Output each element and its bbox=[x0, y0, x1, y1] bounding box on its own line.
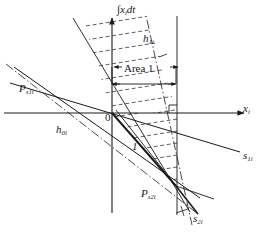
ps1i-label: Ps1i bbox=[19, 83, 34, 96]
one-label: 1 bbox=[132, 141, 138, 152]
figure-svg bbox=[0, 0, 269, 240]
h1i-label: h1i bbox=[143, 33, 154, 46]
diagram-canvas: ∫xidt xi h1i Area 1 Ps1i h0i 0 1 s1i Ps2… bbox=[0, 0, 269, 240]
right-angle-marker bbox=[169, 105, 177, 113]
line-s1i bbox=[10, 83, 240, 152]
line-ps2i-upper-ray bbox=[116, 110, 176, 186]
s2i-label: s2i bbox=[193, 213, 203, 226]
s1i-label: s1i bbox=[243, 150, 253, 163]
h0i-label: h0i bbox=[56, 124, 67, 137]
tick-mark-h1i bbox=[159, 54, 167, 57]
y-axis-label: ∫xidt bbox=[117, 4, 135, 17]
area1-label: Area 1 bbox=[124, 63, 154, 74]
origin-label: 0 bbox=[105, 112, 111, 123]
line-h0i-dashdot bbox=[6, 64, 198, 214]
ps2i-label: Ps2i bbox=[141, 188, 156, 201]
x-axis-label: xi bbox=[243, 103, 250, 116]
tick-marks-s2i bbox=[176, 206, 188, 216]
